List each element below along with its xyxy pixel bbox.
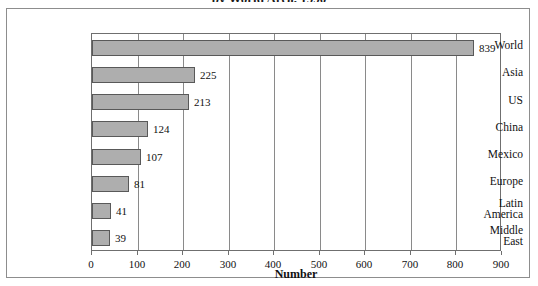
bar-rows: 839225213124107814139 — [92, 34, 500, 250]
category-label: Europe — [451, 176, 529, 187]
bar-value-label: 124 — [148, 121, 170, 137]
bar[interactable] — [92, 149, 141, 165]
x-tick-mark — [91, 251, 92, 255]
bar[interactable] — [92, 121, 148, 137]
category-label: Mexico — [451, 149, 529, 160]
plot-area: 839225213124107814139 — [91, 33, 501, 251]
bar-row: 107 — [92, 149, 500, 165]
x-tick-mark — [455, 251, 456, 255]
x-tick-mark — [137, 251, 138, 255]
x-tick-mark — [319, 251, 320, 255]
bar[interactable] — [92, 176, 129, 192]
category-label: LatinAmerica — [451, 198, 529, 220]
bar-row: 81 — [92, 176, 500, 192]
bar-value-label: 39 — [110, 230, 126, 246]
bar-value-label: 41 — [111, 203, 127, 219]
bar-row: 39 — [92, 230, 500, 246]
chart-frame: 839225213124107814139 WorldAsiaUSChinaMe… — [6, 8, 530, 278]
bar-row: 124 — [92, 121, 500, 137]
x-tick-mark — [182, 251, 183, 255]
figure-title: by World Area, 1990 — [0, 0, 538, 2]
bar-row: 225 — [92, 67, 500, 83]
category-label: MiddleEast — [451, 225, 529, 247]
x-tick-mark — [228, 251, 229, 255]
bar[interactable] — [92, 230, 110, 246]
bar[interactable] — [92, 94, 189, 110]
bar-row: 41 — [92, 203, 500, 219]
category-label: China — [451, 122, 529, 133]
x-tick-mark — [364, 251, 365, 255]
bar[interactable] — [92, 40, 474, 56]
x-tick-mark — [501, 251, 502, 255]
x-tick-mark — [410, 251, 411, 255]
bar-row: 213 — [92, 94, 500, 110]
bar-value-label: 225 — [195, 67, 217, 83]
bar-value-label: 81 — [129, 176, 145, 192]
x-axis-title: Number — [91, 267, 501, 282]
bar[interactable] — [92, 67, 195, 83]
bar-value-label: 107 — [141, 149, 163, 165]
bar-value-label: 213 — [189, 94, 211, 110]
category-label: Asia — [451, 67, 529, 78]
category-label: US — [451, 95, 529, 106]
bar[interactable] — [92, 203, 111, 219]
bar-row: 839 — [92, 40, 500, 56]
x-tick-mark — [273, 251, 274, 255]
category-label: World — [451, 40, 529, 51]
